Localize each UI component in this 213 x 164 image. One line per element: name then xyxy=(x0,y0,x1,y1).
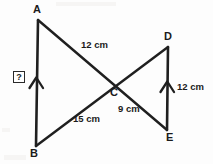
vertex-label-a: A xyxy=(33,4,41,15)
vertex-label-d: D xyxy=(164,31,172,42)
segment-de xyxy=(167,47,168,130)
geometry-figure: A B C D E 12 cm 15 cm 9 cm 12 cm ? xyxy=(0,0,213,164)
vertex-label-e: E xyxy=(166,132,173,143)
segment-bcd xyxy=(36,47,168,146)
segment-ace xyxy=(38,20,167,130)
measurement-label-ce: 9 cm xyxy=(118,104,140,114)
vertex-label-c: C xyxy=(110,87,118,98)
segment-ab xyxy=(36,20,38,146)
measurement-label-bc: 15 cm xyxy=(73,114,100,124)
vertex-label-b: B xyxy=(30,148,38,159)
measurement-label-ac: 12 cm xyxy=(81,40,108,50)
unknown-length-box: ? xyxy=(13,71,25,83)
measurement-label-de: 12 cm xyxy=(177,82,204,92)
